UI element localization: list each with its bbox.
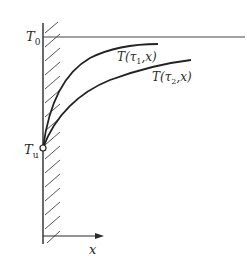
curve1-label: T(τ1,x) — [117, 50, 157, 66]
tu-point — [40, 145, 46, 151]
x-axis-label: x — [89, 242, 97, 257]
curve2-label: T(τ2,x) — [152, 70, 192, 86]
x-axis-arrow-icon — [95, 233, 104, 239]
wall-hatching — [45, 22, 60, 243]
t0-label: T0 — [26, 29, 41, 47]
tu-label: Tu — [24, 142, 39, 160]
diagram-canvas: T0 Tu T(τ1,x) T(τ2,x) x — [0, 0, 247, 269]
